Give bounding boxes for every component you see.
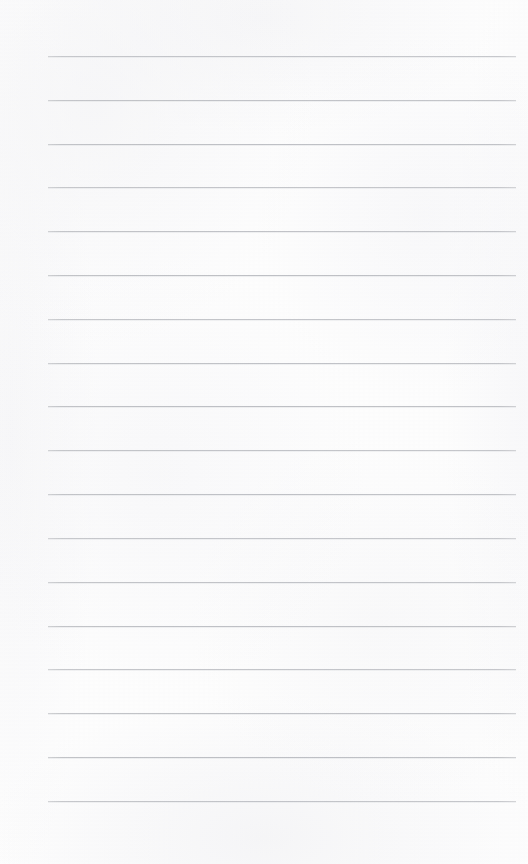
ruled-line [48,144,516,145]
ruled-line [48,494,516,495]
ruled-line [48,626,516,627]
ruled-line [48,669,516,670]
ruled-line [48,100,516,101]
ruled-line [48,538,516,539]
ruled-line [48,56,516,57]
ruled-line [48,275,516,276]
ruled-line [48,319,516,320]
ruled-line [48,582,516,583]
notebook-page [0,0,528,864]
ruled-line [48,231,516,232]
ruled-line-layer [0,0,528,864]
ruled-line [48,450,516,451]
ruled-line [48,801,516,802]
ruled-line [48,406,516,407]
ruled-line [48,757,516,758]
ruled-line [48,187,516,188]
ruled-line [48,713,516,714]
ruled-line [48,363,516,364]
